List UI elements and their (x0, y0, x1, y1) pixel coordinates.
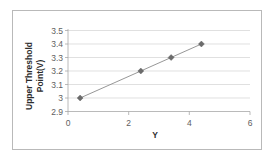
chart-plot-area: 3.5 3.4 3.3 3.2 3.1 3 2.9 0 2 4 6 Y Uppe… (0, 0, 274, 159)
x-axis-ticks (68, 112, 250, 116)
y-axis-title: Upper Threshold Point(V) (24, 42, 45, 110)
data-point-2 (138, 68, 144, 74)
x-tick-label-4: 4 (187, 118, 192, 128)
x-tick-label-6: 6 (248, 118, 253, 128)
y-tick-label-3-4: 3.4 (51, 39, 63, 49)
y-tick-label-3-1: 3.1 (51, 80, 63, 90)
data-point-3 (168, 55, 174, 61)
data-point-4 (198, 41, 204, 47)
y-tick-label-3-3: 3.3 (51, 53, 63, 63)
y-tick-label-2-9: 2.9 (51, 107, 63, 117)
y-tick-label-3-0: 3 (58, 93, 63, 103)
x-tick-label-0: 0 (66, 118, 71, 128)
data-point-1 (77, 95, 83, 101)
gridlines-horizontal (68, 31, 250, 99)
x-tick-label-2: 2 (126, 118, 131, 128)
y-tick-label-3-5: 3.5 (51, 26, 63, 36)
x-axis-title: Y (152, 130, 158, 140)
chart-figure: 3.5 3.4 3.3 3.2 3.1 3 2.9 0 2 4 6 Y Uppe… (0, 0, 274, 159)
y-tick-label-3-2: 3.2 (51, 66, 63, 76)
y-axis-title-line-1: Upper Threshold (24, 42, 34, 110)
y-axis-ticks (65, 31, 68, 112)
y-axis-title-line-2: Point(V) (35, 60, 45, 93)
